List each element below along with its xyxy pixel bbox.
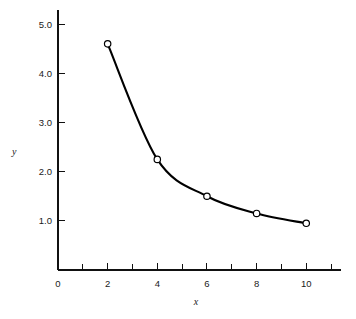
y-tick-label: 4.0 — [39, 68, 52, 79]
x-tick-label: 4 — [155, 278, 160, 289]
y-axis-title: y — [11, 146, 17, 157]
x-tick-label: 0 — [55, 278, 60, 289]
chart-figure: 1.02.03.04.05.0 0246810 y x — [0, 0, 356, 319]
x-tick-label: 2 — [105, 278, 110, 289]
data-point — [154, 156, 160, 162]
y-tick-label: 1.0 — [39, 215, 52, 226]
x-tick-label: 8 — [254, 278, 259, 289]
y-tick-label: 5.0 — [39, 19, 52, 30]
y-tick-label: 2.0 — [39, 166, 52, 177]
y-tick-label: 3.0 — [39, 117, 52, 128]
x-tick-label: 10 — [301, 278, 312, 289]
line-chart: 1.02.03.04.05.0 0246810 y x — [0, 0, 356, 319]
data-point — [104, 41, 110, 47]
data-point — [253, 210, 259, 216]
data-point — [204, 193, 210, 199]
x-tick-label: 6 — [204, 278, 209, 289]
chart-background — [0, 0, 356, 319]
x-axis-title: x — [193, 296, 199, 307]
data-point — [303, 220, 309, 226]
